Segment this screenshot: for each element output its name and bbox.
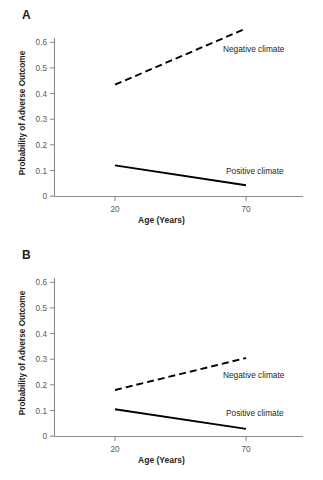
series-annotation-positive-climate: Positive climate	[226, 166, 284, 176]
y-tick-label: 0	[42, 192, 47, 201]
y-tick-label: 0.4	[36, 90, 48, 99]
y-tick-label: 0.4	[36, 330, 48, 339]
y-tick-label: 0.1	[36, 407, 48, 416]
y-tick-label: 0.3	[36, 115, 48, 124]
y-tick-label: 0.3	[36, 355, 48, 364]
series-annotation-negative-climate: Negative climate	[223, 370, 285, 380]
y-tick-label: 0.1	[36, 167, 48, 176]
figure-two-panel-line-charts: A Probability of Adverse Outcome Age (Ye…	[0, 0, 323, 480]
panel-b: B Probability of Adverse Outcome Age (Ye…	[0, 240, 323, 480]
x-tick-label: 70	[241, 445, 251, 454]
x-tick-label: 20	[110, 445, 120, 454]
x-tick-label: 20	[110, 205, 120, 214]
series-annotation-positive-climate: Positive climate	[226, 408, 284, 418]
y-tick-label: 0.2	[36, 141, 48, 150]
y-tick-label: 0	[42, 432, 47, 441]
y-tick-label: 0.5	[36, 304, 48, 313]
panel-a: A Probability of Adverse Outcome Age (Ye…	[0, 0, 323, 240]
y-tick-label: 0.6	[36, 278, 48, 287]
series-annotation-negative-climate: Negative climate	[223, 44, 285, 54]
plot-area-a: 0.6 0.5 0.4 0.3 0.2 0.1 0 20 70 Negative…	[0, 0, 323, 240]
y-tick-label: 0.6	[36, 38, 48, 47]
x-tick-label: 70	[241, 205, 251, 214]
y-tick-label: 0.5	[36, 64, 48, 73]
series-line-negative-climate	[115, 28, 246, 84]
y-tick-label: 0.2	[36, 381, 48, 390]
plot-area-b: 0.6 0.5 0.4 0.3 0.2 0.1 0 20 70 Negative…	[0, 240, 323, 480]
